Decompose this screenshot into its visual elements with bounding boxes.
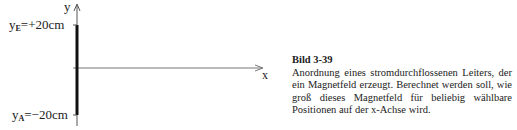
top-end-label: yE=+20cm (9, 18, 64, 35)
caption-title: Bild 3-39 (292, 54, 512, 67)
top-end-value: =+20cm (21, 17, 65, 32)
figure-caption: Bild 3-39 Anordnung eines stromdurchflos… (292, 54, 512, 117)
y-axis-label: y (64, 0, 71, 13)
caption-text: Anordnung eines stromdurchflossenen Leit… (292, 67, 512, 116)
x-axis-label: x (262, 69, 268, 82)
bottom-end-value: =−20cm (24, 107, 68, 122)
bottom-end-label: yA=−20cm (12, 108, 68, 125)
